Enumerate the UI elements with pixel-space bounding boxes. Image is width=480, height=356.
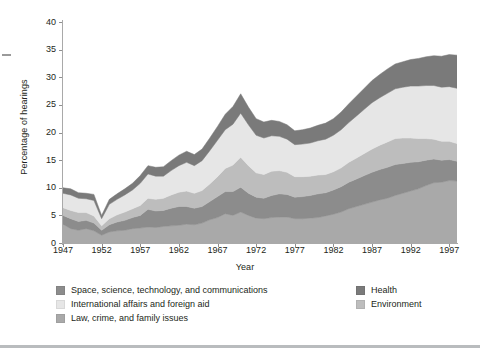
legend-item[interactable]: Law, crime, and family issues <box>56 311 267 325</box>
legend-swatch-icon <box>356 300 365 309</box>
legend-item[interactable]: Environment <box>356 297 422 311</box>
x-tick-label: 1982 <box>313 246 353 255</box>
legend-item-label: Law, crime, and family issues <box>71 314 188 323</box>
legend-item-label: International affairs and foreign aid <box>71 300 209 309</box>
y-tick-label: 35 <box>28 45 56 54</box>
stacked-area-plot <box>63 22 457 243</box>
legend-swatch-icon <box>56 300 65 309</box>
y-tick-label: 30 <box>28 73 56 82</box>
legend-swatch-icon <box>56 314 65 323</box>
x-tick-label: 1987 <box>352 246 392 255</box>
legend-column-left: Space, science, technology, and communic… <box>56 283 267 325</box>
page-edge-mark <box>2 54 11 56</box>
area-series-group <box>63 22 457 243</box>
legend-item-label: Environment <box>371 300 422 309</box>
x-tick-label: 1997 <box>429 246 469 255</box>
x-tick-label: 1967 <box>198 246 238 255</box>
legend-swatch-icon <box>356 286 365 295</box>
x-axis-line <box>62 243 458 244</box>
y-tick-label: 10 <box>28 183 56 192</box>
legend-item[interactable]: Health <box>356 283 422 297</box>
x-tick-label: 1952 <box>82 246 122 255</box>
figure: Percentage of hearings 0510152025303540 … <box>0 0 480 356</box>
y-tick-label: 25 <box>28 100 56 109</box>
legend-item-label: Health <box>371 286 397 295</box>
y-tick-label: 15 <box>28 156 56 165</box>
footer-rule <box>0 345 480 348</box>
x-tick-label: 1947 <box>43 246 83 255</box>
legend-swatch-icon <box>56 286 65 295</box>
x-tick-label: 1992 <box>391 246 431 255</box>
x-tick-label: 1957 <box>120 246 160 255</box>
legend-item-label: Space, science, technology, and communic… <box>71 286 267 295</box>
legend-item[interactable]: International affairs and foreign aid <box>56 297 267 311</box>
legend-item[interactable]: Space, science, technology, and communic… <box>56 283 267 297</box>
y-tick-label: 40 <box>28 18 56 27</box>
y-tick-label: 5 <box>28 211 56 220</box>
x-axis-title: Year <box>205 262 285 272</box>
x-tick-label: 1977 <box>275 246 315 255</box>
y-tick-label: 20 <box>28 128 56 137</box>
legend-column-right: HealthEnvironment <box>356 283 422 311</box>
x-tick-label: 1962 <box>159 246 199 255</box>
x-tick-label: 1972 <box>236 246 276 255</box>
